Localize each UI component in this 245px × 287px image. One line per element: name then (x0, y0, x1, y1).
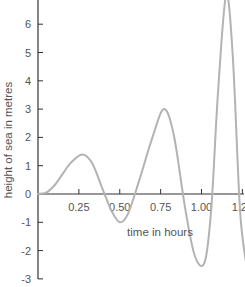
x-tick-label: 1.00 (191, 201, 212, 213)
y-tick-label: 3 (25, 103, 31, 115)
y-tick-label: 5 (25, 47, 31, 59)
y-tick-label: -3 (21, 273, 31, 285)
y-tick-label: 2 (25, 131, 31, 143)
y-tick-label: -2 (21, 245, 31, 257)
y-axis: 76543210-1-2-3 (21, 0, 43, 285)
y-tick-label: 0 (25, 188, 31, 200)
y-tick-label: 1 (25, 160, 31, 172)
x-axis-label: time in hours (127, 226, 193, 238)
x-tick-label: 0.25 (68, 201, 89, 213)
y-tick-label: 4 (25, 75, 31, 87)
y-tick-label: 6 (25, 18, 31, 30)
line-chart: 76543210-1-2-3 0.250.500.751.001.25 time… (0, 0, 245, 287)
x-tick-label: 1.25 (232, 201, 245, 213)
y-tick-label: -1 (21, 216, 31, 228)
y-axis-label: height of sea in metres (2, 82, 14, 199)
y-tick-label: 7 (25, 0, 31, 2)
x-tick-label: 0.75 (150, 201, 171, 213)
x-axis: 0.250.500.751.001.25 (38, 189, 245, 213)
